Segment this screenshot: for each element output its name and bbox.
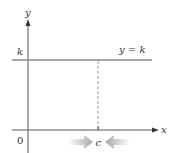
x-axis-label: x: [161, 124, 167, 135]
left-approach-arrow-icon: [68, 135, 93, 149]
y-axis-label: y: [24, 7, 31, 18]
k-tick-label: k: [17, 46, 23, 57]
origin-label: 0: [17, 135, 23, 146]
x-axis-arrowhead-icon: [152, 128, 159, 133]
x-axis: [12, 128, 159, 133]
line-equation-label: y = k: [118, 44, 145, 55]
point-c-label: c: [96, 137, 102, 148]
constant-function-diagram: y x 0 k y = k c: [0, 0, 170, 153]
y-axis: [26, 19, 31, 153]
y-axis-arrowhead-icon: [26, 19, 31, 26]
right-approach-arrow-icon: [105, 135, 130, 149]
